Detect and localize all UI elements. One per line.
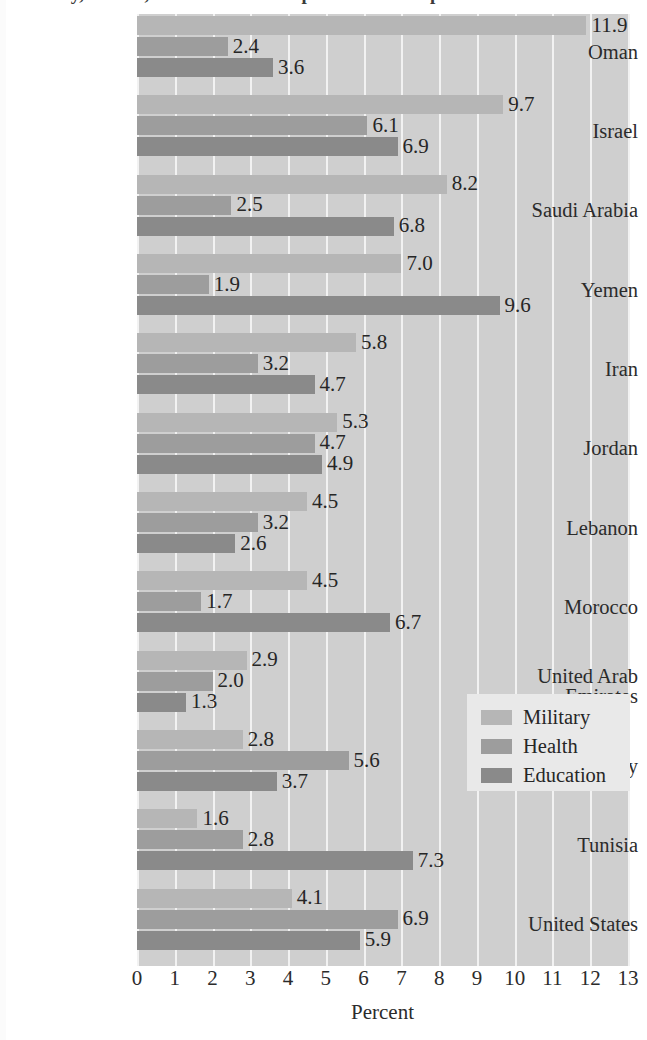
bar-value-label: 5.6 — [354, 750, 380, 771]
bar-value-label: 9.7 — [508, 94, 534, 115]
bar-value-label: 1.7 — [206, 591, 232, 612]
x-tick-label: 9 — [472, 966, 483, 991]
bar-value-label: 2.6 — [240, 533, 266, 554]
bar-military: 5.8 — [137, 333, 356, 352]
bar-value-label: 7.0 — [406, 253, 432, 274]
category-label-israel: Israel — [516, 121, 647, 143]
gridline — [628, 14, 630, 966]
bar-value-label: 4.5 — [312, 570, 338, 591]
category-label-iran: Iran — [516, 359, 647, 381]
bar-education: 6.9 — [137, 137, 398, 156]
category-label-line: Morocco — [516, 597, 638, 619]
bar-value-label: 1.6 — [202, 808, 228, 829]
bar-value-label: 3.2 — [263, 512, 289, 533]
bar-health: 6.1 — [137, 116, 367, 135]
bar-value-label: 1.9 — [214, 274, 240, 295]
bar-value-label: 4.5 — [312, 491, 338, 512]
category-label-line: Jordan — [516, 438, 638, 460]
bar-value-label: 2.9 — [252, 649, 278, 670]
category-label-united-states: United States — [516, 914, 647, 936]
category-label-line: Saudi Arabia — [516, 200, 638, 222]
bar-value-label: 4.1 — [297, 887, 323, 908]
bar-military: 2.8 — [137, 730, 243, 749]
legend-swatch-military — [481, 710, 512, 725]
bar-value-label: 6.8 — [399, 215, 425, 236]
bar-value-label: 3.2 — [263, 353, 289, 374]
chart-legend: MilitaryHealthEducation — [467, 694, 630, 791]
x-tick-label: 13 — [618, 966, 639, 991]
x-tick-label: 10 — [504, 966, 525, 991]
x-tick-label: 12 — [580, 966, 601, 991]
bar-value-label: 2.5 — [236, 194, 262, 215]
category-label-morocco: Morocco — [516, 597, 647, 619]
category-label-line: Oman — [516, 42, 638, 64]
bar-value-label: 8.2 — [452, 173, 478, 194]
bar-military: 11.9 — [137, 16, 586, 35]
legend-label: Education — [523, 764, 606, 787]
category-label-jordan: Jordan — [516, 438, 647, 460]
bar-military: 4.5 — [137, 492, 307, 511]
legend-swatch-education — [481, 768, 512, 783]
bar-chart: 11.92.43.69.76.16.98.22.56.87.01.99.65.8… — [0, 0, 647, 1040]
x-tick-label: 6 — [358, 966, 369, 991]
category-label-saudi-arabia: Saudi Arabia — [516, 200, 647, 222]
bar-education: 3.7 — [137, 772, 277, 791]
bar-value-label: 5.9 — [365, 929, 391, 950]
bar-health: 6.9 — [137, 910, 398, 929]
bar-health: 4.7 — [137, 434, 315, 453]
bar-military: 4.1 — [137, 889, 292, 908]
category-label-lebanon: Lebanon — [516, 518, 647, 540]
x-tick-label: 1 — [170, 966, 181, 991]
bar-military: 4.5 — [137, 571, 307, 590]
bar-military: 7.0 — [137, 254, 401, 273]
bar-health: 2.0 — [137, 672, 213, 691]
category-label-line: United Arab — [516, 666, 638, 687]
bar-health: 2.8 — [137, 830, 243, 849]
bar-value-label: 2.0 — [218, 670, 244, 691]
legend-entry-health: Health — [481, 732, 630, 761]
bar-military: 5.3 — [137, 413, 337, 432]
bar-value-label: 5.3 — [342, 411, 368, 432]
x-tick-label: 3 — [245, 966, 256, 991]
plot-area: 11.92.43.69.76.16.98.22.56.87.01.99.65.8… — [137, 14, 628, 966]
bar-education: 7.3 — [137, 851, 413, 870]
x-tick-label: 4 — [283, 966, 294, 991]
bar-military: 2.9 — [137, 651, 247, 670]
bar-value-label: 3.6 — [278, 57, 304, 78]
bar-health: 2.5 — [137, 196, 231, 215]
bar-value-label: 11.9 — [591, 15, 627, 36]
category-label-line: Tunisia — [516, 835, 638, 857]
bar-military: 1.6 — [137, 809, 197, 828]
x-tick-label: 7 — [396, 966, 407, 991]
x-tick-label: 0 — [132, 966, 143, 991]
bar-value-label: 5.8 — [361, 332, 387, 353]
legend-entry-military: Military — [481, 703, 630, 732]
bar-education: 2.6 — [137, 534, 235, 553]
bar-education: 1.3 — [137, 693, 186, 712]
category-label-oman: Oman — [516, 42, 647, 64]
category-label-tunisia: Tunisia — [516, 835, 647, 857]
bar-value-label: 3.7 — [282, 771, 308, 792]
x-tick-label: 2 — [207, 966, 218, 991]
x-tick-label: 11 — [542, 966, 562, 991]
bar-education: 5.9 — [137, 931, 360, 950]
bar-education: 4.7 — [137, 375, 315, 394]
category-label-line: Yemen — [516, 280, 638, 302]
bar-education: 3.6 — [137, 58, 273, 77]
bar-value-label: 4.9 — [327, 453, 353, 474]
x-tick-label: 5 — [321, 966, 332, 991]
bar-health: 2.4 — [137, 37, 228, 56]
category-label-line: Lebanon — [516, 518, 638, 540]
bar-value-label: 2.4 — [233, 36, 259, 57]
bar-value-label: 4.7 — [320, 374, 346, 395]
bar-value-label: 6.9 — [403, 908, 429, 929]
category-label-yemen: Yemen — [516, 280, 647, 302]
legend-label: Health — [523, 735, 578, 758]
category-label-line: United States — [516, 914, 638, 936]
bar-education: 6.8 — [137, 217, 394, 236]
bar-health: 1.9 — [137, 275, 209, 294]
category-label-line: Iran — [516, 359, 638, 381]
bar-value-label: 6.7 — [395, 612, 421, 633]
bar-health: 1.7 — [137, 592, 201, 611]
bar-health: 3.2 — [137, 513, 258, 532]
